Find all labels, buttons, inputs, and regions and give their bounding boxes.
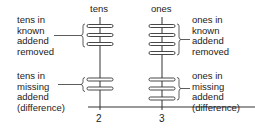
ones-digit: 3 <box>159 113 165 124</box>
tens-digit: 2 <box>96 113 102 124</box>
tens-known-brace <box>54 24 85 47</box>
tens-missing-label: tens in missing addend (difference) <box>17 71 65 113</box>
ones-known-label: ones in known addend removed <box>192 15 229 57</box>
ones-header: ones <box>151 3 172 14</box>
ones-missing-brace <box>177 78 190 101</box>
ones-missing-label: ones in missing addend (difference) <box>192 71 240 113</box>
tens-known-disks <box>87 25 113 46</box>
tens-header: tens <box>90 3 108 14</box>
ones-known-brace <box>177 24 190 55</box>
ones-missing-disks <box>149 78 175 100</box>
tens-known-label: tens in known addend removed <box>17 15 54 57</box>
